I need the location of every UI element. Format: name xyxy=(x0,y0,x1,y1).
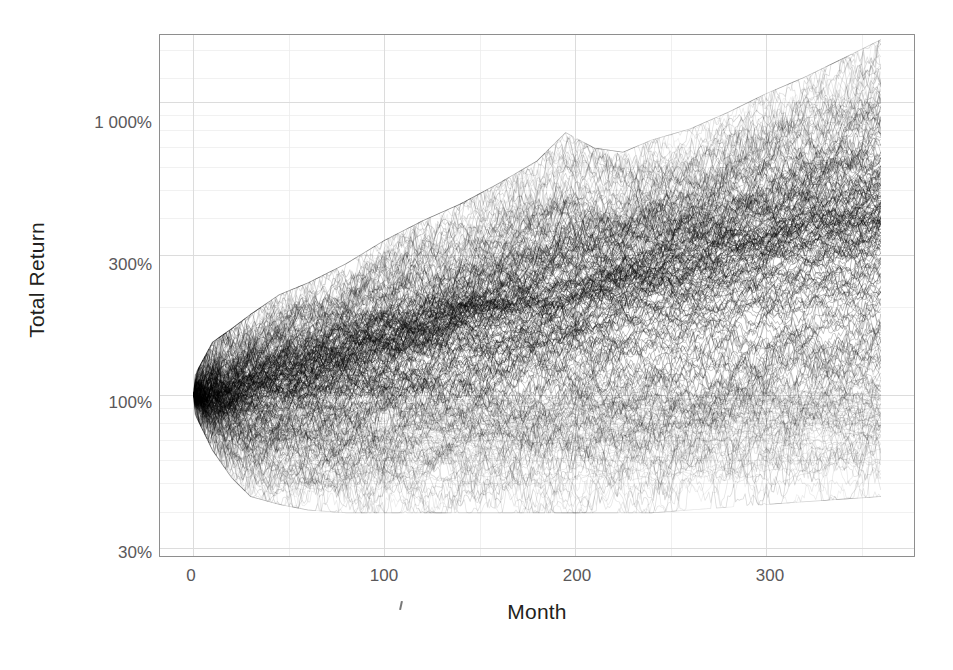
y-tick-label-100: 100% xyxy=(52,393,152,413)
x-tick-label-300: 300 xyxy=(730,566,810,586)
y-tick-label-1000: 1 000% xyxy=(52,113,152,133)
x-tick-label-100: 100 xyxy=(344,566,424,586)
x-tick-label-200: 200 xyxy=(537,566,617,586)
figure-container: Total Return 1 000% 300% 100% 30% 0 100 … xyxy=(0,0,953,670)
monte-carlo-fan-plot xyxy=(159,34,915,557)
x-axis-title: Month xyxy=(159,600,915,624)
y-axis-title: Total Return xyxy=(12,0,62,560)
x-tick-label-0: 0 xyxy=(151,566,231,586)
y-tick-label-30: 30% xyxy=(52,543,152,563)
y-tick-label-300: 300% xyxy=(52,255,152,275)
